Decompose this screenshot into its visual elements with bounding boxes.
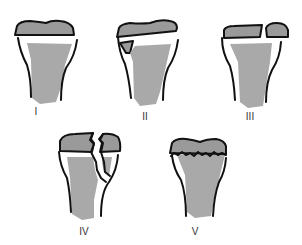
label-type-iii: III (235, 111, 265, 122)
label-type-iv: IV (69, 226, 99, 237)
panel-type-iii (222, 23, 288, 108)
panel-type-i (15, 21, 77, 104)
label-type-ii: II (130, 111, 160, 122)
panel-type-ii (117, 20, 178, 106)
label-type-i: I (21, 106, 51, 117)
salter-harris-diagram: .ol { fill: none; stroke: #111; stroke-w… (0, 0, 302, 245)
label-type-v: V (180, 226, 210, 237)
panel-type-iv (59, 133, 120, 220)
panel-type-v (170, 139, 226, 218)
